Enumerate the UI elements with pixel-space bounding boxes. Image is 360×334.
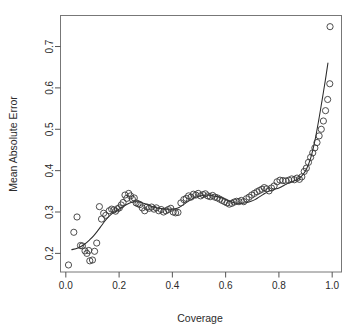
x-tick-label: 0.2	[112, 280, 126, 291]
x-tick-label: 0.0	[59, 280, 73, 291]
y-tick-label: 0.3	[44, 205, 55, 219]
x-tick-label: 0.8	[272, 280, 286, 291]
x-tick-label: 0.6	[219, 280, 233, 291]
scatter-plot-canvas: 0.00.20.40.60.81.0 0.20.30.40.50.60.7 Co…	[0, 0, 360, 334]
x-tick-label: 1.0	[325, 280, 339, 291]
y-axis-title: Mean Absolute Error	[7, 96, 19, 192]
y-tick-label: 0.4	[44, 163, 55, 177]
y-tick-label: 0.2	[44, 246, 55, 260]
chart-figure: 0.00.20.40.60.81.0 0.20.30.40.50.60.7 Co…	[0, 0, 360, 334]
y-tick-label: 0.6	[44, 81, 55, 95]
y-tick-label: 0.5	[44, 122, 55, 136]
y-tick-label: 0.7	[44, 39, 55, 53]
x-tick-label: 0.4	[165, 280, 179, 291]
x-axis-title: Coverage	[177, 312, 223, 324]
